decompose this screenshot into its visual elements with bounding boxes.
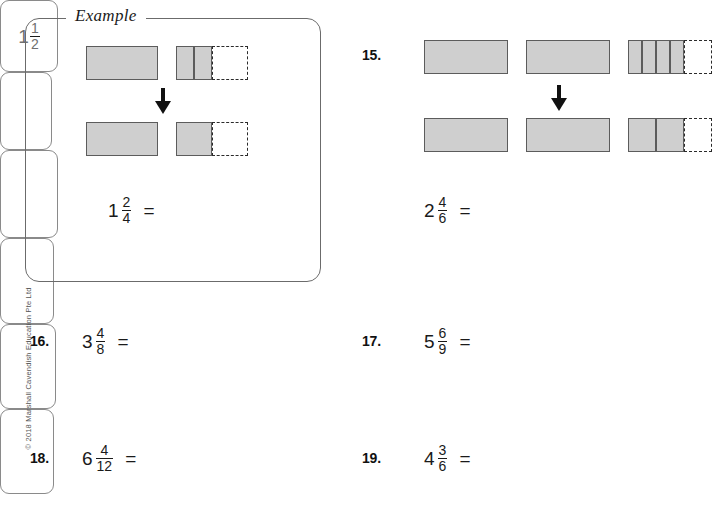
bar-model-fraction [176, 122, 248, 156]
bar-cell-empty [684, 40, 712, 74]
problem-18-denominator: 12 [96, 458, 114, 474]
problem-18-equals-sign: = [125, 449, 136, 468]
problem-number-18: 18. [30, 450, 49, 466]
bar-model-whole [86, 122, 158, 156]
example-fraction: 2 4 [122, 195, 132, 225]
problem-15-numerator: 4 [438, 195, 448, 210]
example-top-bar-model [86, 46, 248, 80]
bar-cell-empty [212, 122, 248, 156]
problem-19-fraction: 3 6 [438, 443, 448, 473]
problem-number-19: 19. [362, 450, 381, 466]
bar-cell-shaded [176, 122, 212, 156]
example-whole-number: 1 [108, 201, 119, 220]
problem-17-equals-sign: = [459, 332, 470, 351]
problem-16-equation: 3 4 8 = [82, 326, 139, 356]
arrow-head [155, 101, 171, 114]
bar-model-whole [424, 118, 508, 152]
problem-16-fraction: 4 8 [96, 326, 106, 356]
problem-15-fraction: 4 6 [438, 195, 448, 225]
bar-model-whole [526, 118, 610, 152]
bar-cell-shaded [670, 40, 684, 74]
problem-18-fraction: 4 12 [96, 443, 114, 473]
problem-number-16: 16. [30, 333, 49, 349]
example-equation: 1 2 4 = [108, 195, 165, 225]
problem-19-equation: 4 3 6 = [424, 443, 481, 473]
problem-18-numerator: 4 [99, 443, 109, 458]
copyright-notice: © 2018 Marshall Cavendish Education Pte … [24, 290, 33, 450]
bar-model-fraction [176, 46, 248, 80]
bar-model-whole [86, 46, 158, 80]
problem-16-numerator: 4 [96, 326, 106, 341]
problem-number-15: 15. [362, 47, 381, 63]
problem-16-whole-number: 3 [82, 332, 93, 351]
problem-18-equation: 6 4 12 = [82, 443, 147, 473]
bar-cell-shaded [656, 40, 670, 74]
problem-15-equation: 2 4 6 = [424, 195, 481, 225]
example-equals-sign: = [143, 201, 154, 220]
problem-number-17: 17. [362, 333, 381, 349]
problem-16-equals-sign: = [117, 332, 128, 351]
bar-cell-shaded [176, 46, 194, 80]
bar-cell-shaded [424, 118, 508, 152]
problem-17-fraction: 6 9 [438, 326, 448, 356]
bar-cell-shaded [642, 40, 656, 74]
example-bottom-bar-model [86, 122, 248, 156]
problem-16-denominator: 8 [96, 341, 106, 357]
bar-model-whole [424, 40, 508, 74]
example-denominator: 4 [122, 210, 132, 226]
bar-cell-empty [212, 46, 248, 80]
problem-15-equals-sign: = [459, 201, 470, 220]
problem-17-equation: 5 6 9 = [424, 326, 481, 356]
problem-17-denominator: 9 [438, 341, 448, 357]
bar-cell-shaded [86, 46, 158, 80]
bar-cell-shaded [656, 118, 684, 152]
problem-19-denominator: 6 [438, 458, 448, 474]
bar-cell-shaded [526, 40, 610, 74]
problem-19-numerator: 3 [438, 443, 448, 458]
problem-17-whole-number: 5 [424, 332, 435, 351]
bar-cell-shaded [86, 122, 158, 156]
bar-model-fraction [628, 40, 712, 74]
problem-15-bottom-bar-model [424, 118, 712, 152]
problem-19-whole-number: 4 [424, 449, 435, 468]
arrow-head [551, 98, 567, 111]
bar-model-whole [526, 40, 610, 74]
bar-cell-shaded [628, 118, 656, 152]
bar-cell-shaded [424, 40, 508, 74]
problem-15-whole-number: 2 [424, 201, 435, 220]
problem-15-top-bar-model [424, 40, 712, 74]
problem-15-denominator: 6 [438, 210, 448, 226]
problem-18-whole-number: 6 [82, 449, 93, 468]
bar-cell-empty [684, 118, 712, 152]
problem-19-equals-sign: = [459, 449, 470, 468]
problem-17-numerator: 6 [438, 326, 448, 341]
down-arrow-icon [155, 88, 171, 114]
example-label: Example [66, 6, 146, 26]
bar-cell-shaded [526, 118, 610, 152]
down-arrow-icon [551, 85, 567, 111]
bar-cell-shaded [194, 46, 212, 80]
bar-cell-shaded [628, 40, 642, 74]
example-numerator: 2 [122, 195, 132, 210]
bar-model-fraction [628, 118, 712, 152]
